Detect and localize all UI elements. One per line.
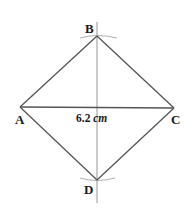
side-bc xyxy=(97,36,174,108)
side-cd xyxy=(97,108,174,180)
vertex-label-c: C xyxy=(171,113,180,126)
diagonal-ac xyxy=(20,107,174,108)
measurement-value: 6.2 xyxy=(76,112,90,124)
vertex-label-d: D xyxy=(84,183,93,196)
side-ab xyxy=(20,36,97,107)
construction-canvas xyxy=(0,0,193,214)
vertex-label-a: A xyxy=(15,113,24,126)
vertex-label-b: B xyxy=(85,22,94,35)
measurement-unit: cm xyxy=(93,112,107,124)
diagonal-measurement: 6.2 cm xyxy=(76,113,107,125)
